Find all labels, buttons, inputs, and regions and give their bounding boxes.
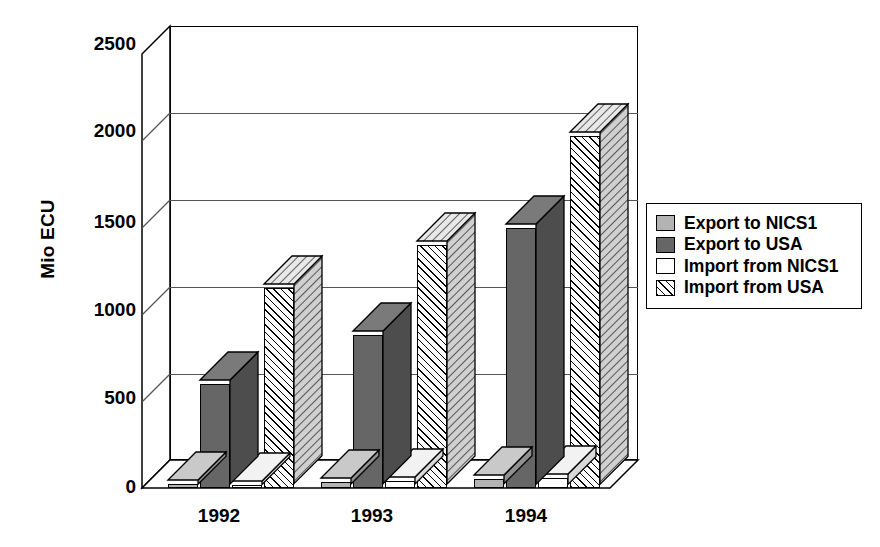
y-tick-1000: 1000 xyxy=(40,299,136,321)
y-tick-2000: 2000 xyxy=(40,120,136,142)
legend-swatch-white xyxy=(656,258,675,274)
bar-3d-faces xyxy=(168,452,230,488)
legend-label: Import from NICS1 xyxy=(684,257,839,276)
legend-label: Import from USA xyxy=(684,278,824,297)
y-tick-0: 0 xyxy=(40,476,136,498)
y-axis-tick-labels: 2500 2000 1500 1000 500 0 xyxy=(40,0,136,547)
legend-swatch-dark-gray xyxy=(656,237,675,253)
bar-1994-import-from-usa xyxy=(570,136,600,488)
chart-legend: Export to NICS1 Export to USA Import fro… xyxy=(646,203,862,309)
x-tick-1992: 1992 xyxy=(198,505,240,527)
legend-item-export-nics1: Export to NICS1 xyxy=(656,214,852,233)
bar-front-face xyxy=(570,136,600,488)
legend-label: Export to NICS1 xyxy=(684,214,817,233)
plot-area xyxy=(142,26,638,488)
legend-swatch-light-gray xyxy=(656,215,675,231)
bar-chart: Mio ECU 2500 2000 1500 1000 500 0 1992 xyxy=(0,0,880,547)
legend-item-export-usa: Export to USA xyxy=(656,235,852,254)
legend-item-import-usa: Import from USA xyxy=(656,278,852,297)
y-tick-2500: 2500 xyxy=(40,33,136,55)
bar-front-face xyxy=(168,484,198,488)
y-tick-500: 500 xyxy=(40,387,136,409)
legend-label: Export to USA xyxy=(684,235,803,254)
bar-1992-export-to-nics1 xyxy=(168,484,198,488)
x-tick-1993: 1993 xyxy=(351,505,393,527)
x-tick-1994: 1994 xyxy=(505,505,547,527)
legend-item-import-nics1: Import from NICS1 xyxy=(656,257,852,276)
y-tick-1500: 1500 xyxy=(40,211,136,233)
legend-swatch-diagonal-hatch xyxy=(656,280,675,296)
bars-layer xyxy=(142,26,638,488)
